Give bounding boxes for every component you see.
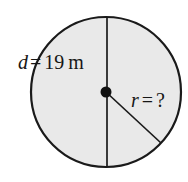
- radius-variable: r: [131, 89, 139, 111]
- radius-value: ?: [156, 89, 165, 111]
- radius-label: r=?: [131, 90, 165, 110]
- diameter-operator: =: [30, 51, 41, 73]
- center-point-dot: [101, 87, 112, 98]
- radius-operator: =: [142, 89, 153, 111]
- diameter-unit: m: [68, 51, 84, 73]
- circle-diagram: d=19m r=?: [0, 0, 188, 182]
- diameter-variable: d: [18, 51, 28, 73]
- diameter-value: 19: [44, 51, 64, 73]
- diameter-label: d=19m: [18, 52, 84, 72]
